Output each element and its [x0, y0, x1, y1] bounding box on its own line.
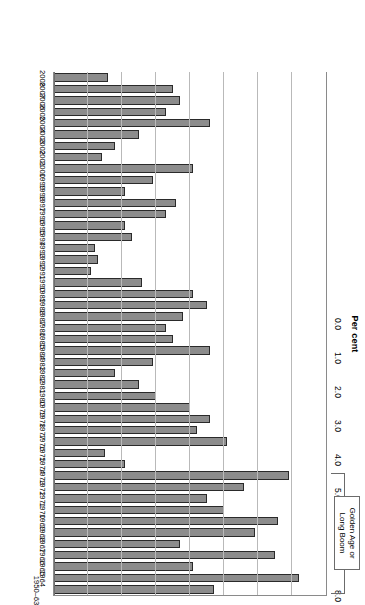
bar-1983[interactable] — [54, 358, 153, 366]
tick-label-4.0: 4.0 — [327, 454, 349, 466]
bar-row — [54, 278, 326, 286]
tick-label-text: 3.0 — [332, 420, 344, 432]
bar-1988[interactable] — [54, 301, 207, 309]
bar-row — [54, 130, 326, 138]
bar-2008[interactable] — [54, 73, 108, 81]
bar-row — [54, 358, 326, 366]
bar-1992[interactable] — [54, 255, 98, 263]
bar-1986[interactable] — [54, 324, 166, 332]
gridline-7.0 — [291, 72, 292, 595]
bar-2002[interactable] — [54, 142, 115, 150]
bar-1967[interactable] — [54, 540, 180, 548]
tick-label-text: 4.0 — [332, 454, 344, 466]
bar-row — [54, 562, 326, 570]
tick-label-text: 1.0 — [332, 352, 344, 364]
bar-row — [54, 346, 326, 354]
bar-1999[interactable] — [54, 176, 153, 184]
tick-label-text: 2.0 — [332, 386, 344, 398]
category-label-text: 2008 — [38, 70, 47, 87]
gridline-1.0 — [87, 72, 88, 595]
bar-1972[interactable] — [54, 483, 244, 491]
bar-row — [54, 437, 326, 445]
bar-2004[interactable] — [54, 119, 210, 127]
bar-row — [54, 369, 326, 377]
bar-row — [54, 415, 326, 423]
bar-1976[interactable] — [54, 437, 227, 445]
bar-1974[interactable] — [54, 460, 125, 468]
bar-row — [54, 324, 326, 332]
bar-1995[interactable] — [54, 221, 125, 229]
bar-1998[interactable] — [54, 187, 125, 195]
bar-row — [54, 449, 326, 457]
bar-row — [54, 153, 326, 161]
bar-row — [54, 506, 326, 514]
bar-2005[interactable] — [54, 108, 166, 116]
gridline-5.0 — [223, 72, 224, 595]
bar-row — [54, 244, 326, 252]
bar-row — [54, 255, 326, 263]
bar-row — [54, 164, 326, 172]
bar-1973[interactable] — [54, 471, 289, 479]
bar-1984[interactable] — [54, 346, 210, 354]
bar-2001[interactable] — [54, 153, 102, 161]
bar-1991[interactable] — [54, 267, 91, 275]
bar-row — [54, 73, 326, 81]
bar-row — [54, 210, 326, 218]
tick-label-3.0: 3.0 — [327, 420, 349, 432]
bar-2003[interactable] — [54, 130, 139, 138]
bar-row — [54, 380, 326, 388]
category-label-2008[interactable]: 2008 — [1, 73, 51, 84]
bar-row — [54, 494, 326, 502]
bar-1978[interactable] — [54, 415, 210, 423]
bar-1997[interactable] — [54, 199, 176, 207]
category-axis-labels: 1950–63196419651966196719681969197019711… — [1, 72, 51, 596]
bar-1989[interactable] — [54, 290, 193, 298]
bar-row — [54, 426, 326, 434]
bar-row — [54, 96, 326, 104]
bar-row — [54, 187, 326, 195]
golden-age-annotation-text: Golden Age or Long Boom — [337, 508, 357, 559]
bar-1971[interactable] — [54, 494, 207, 502]
bar-row — [54, 528, 326, 536]
bar-row — [54, 540, 326, 548]
bar-row — [54, 471, 326, 479]
bar-row — [54, 221, 326, 229]
bar-1979[interactable] — [54, 403, 190, 411]
gridline-2.0 — [121, 72, 122, 595]
bar-series — [54, 72, 326, 595]
bar-row — [54, 142, 326, 150]
bar-row — [54, 199, 326, 207]
annotation-line-1: Golden Age or — [347, 508, 357, 559]
gridline-4.0 — [189, 72, 190, 595]
bar-1964[interactable] — [54, 574, 299, 582]
bar-1965[interactable] — [54, 562, 193, 570]
golden-age-annotation-box: Golden Age or Long Boom — [334, 497, 360, 571]
bar-row — [54, 460, 326, 468]
bar-1975[interactable] — [54, 449, 105, 457]
bar-1970[interactable] — [54, 506, 224, 514]
bar-1982[interactable] — [54, 369, 115, 377]
value-axis-title-text: Per cent — [350, 315, 360, 352]
tick-label-text: 0.0 — [332, 318, 344, 330]
bar-1990[interactable] — [54, 278, 142, 286]
bar-1993[interactable] — [54, 244, 95, 252]
bar-row — [54, 290, 326, 298]
bar-row — [54, 483, 326, 491]
bar-1987[interactable] — [54, 312, 183, 320]
bar-1977[interactable] — [54, 426, 197, 434]
gridline-3.0 — [155, 72, 156, 595]
annotation-line-2: Long Boom — [337, 508, 347, 559]
bar-row — [54, 119, 326, 127]
bar-1980[interactable] — [54, 392, 156, 400]
bar-1996[interactable] — [54, 210, 166, 218]
bar-1981[interactable] — [54, 380, 139, 388]
bar-row — [54, 585, 326, 593]
value-axis-baseline — [54, 72, 55, 595]
bar-2000[interactable] — [54, 164, 193, 172]
bar-2006[interactable] — [54, 96, 180, 104]
bar-row — [54, 85, 326, 93]
bar-row — [54, 176, 326, 184]
bar-row — [54, 392, 326, 400]
